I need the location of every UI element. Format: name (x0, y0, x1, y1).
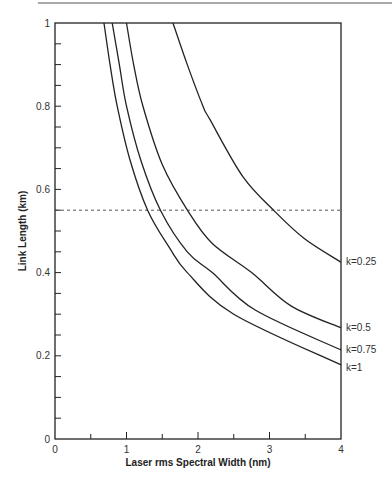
axis-ticks (55, 44, 305, 439)
curve-labels: k=0.25k=0.5k=0.75k=1 (346, 256, 377, 373)
x-tick-label: 3 (267, 444, 273, 455)
y-tick-label: 0.2 (36, 350, 50, 361)
curve-label: k=1 (346, 362, 363, 373)
x-tick-label: 2 (195, 444, 201, 455)
y-axis-title: Link Length (km) (17, 191, 28, 272)
y-tick-label: 1 (44, 18, 50, 29)
curve-k-0_5 (127, 23, 342, 328)
y-tick-label: 0.6 (36, 184, 50, 195)
chart: 0123400.20.40.60.81 k=0.25k=0.5k=0.75k=1… (0, 0, 392, 489)
curves (104, 23, 341, 365)
curve-k-0_75 (112, 23, 341, 350)
curve-label: k=0.75 (346, 344, 377, 355)
x-tick-label: 0 (52, 444, 58, 455)
y-tick-label: 0.4 (36, 267, 50, 278)
y-tick-label: 0.8 (36, 101, 50, 112)
y-tick-label: 0 (44, 434, 50, 445)
curve-label: k=0.5 (346, 322, 371, 333)
x-tick-label: 1 (124, 444, 130, 455)
tick-labels: 0123400.20.40.60.81 (36, 18, 344, 456)
x-axis-title: Laser rms Spectral Width (nm) (126, 457, 271, 468)
plot-frame (55, 23, 341, 439)
x-tick-label: 4 (338, 444, 344, 455)
curve-label: k=0.25 (346, 256, 377, 267)
